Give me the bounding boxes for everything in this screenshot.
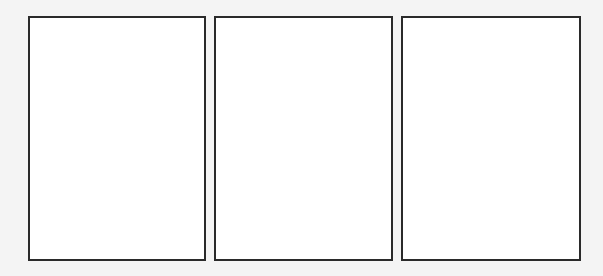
panel-2-content <box>216 18 391 259</box>
panel-3 <box>401 16 581 261</box>
panel-3-content <box>403 18 579 259</box>
panel-1 <box>28 16 206 261</box>
panel-1-content <box>30 18 204 259</box>
panel-2 <box>214 16 393 261</box>
